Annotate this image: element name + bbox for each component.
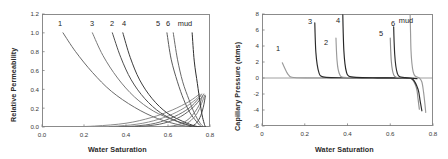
x-axis-label-left: Water Saturation [88, 145, 147, 154]
x-tick-label: 0.8 [423, 130, 443, 137]
x-tick-label: 0.2 [295, 130, 315, 137]
y-axis-label-left: Relative Permeability [9, 48, 18, 122]
x-tick-label: 0.0 [32, 131, 52, 138]
y-tick-label: 4 [240, 42, 259, 49]
y-tick-label: 8 [240, 10, 259, 17]
y-tick-label: 0 [240, 74, 259, 81]
curve-label-left-6: 6 [159, 19, 177, 28]
y-tick-label: 0.2 [20, 105, 39, 112]
y-tick-label: 0.4 [20, 86, 39, 93]
curve-label-right-3: 3 [301, 17, 319, 26]
y-tick-label: 1.2 [20, 10, 39, 17]
x-tick-label: 0.8 [200, 131, 220, 138]
curve-label-left-1: 1 [51, 19, 69, 28]
x-axis-label-right: Water Saturation [315, 145, 374, 154]
y-tick-label: 2 [240, 58, 259, 65]
y-tick-label: 6 [240, 26, 259, 33]
y-tick-label: 0.0 [20, 123, 39, 130]
curve-label-right-5: 5 [372, 29, 390, 38]
curve-label-left-4: 4 [115, 19, 133, 28]
x-tick-label: 0.2 [74, 131, 94, 138]
curve-label-right-mud: mud [397, 16, 415, 25]
y-tick-label: 1.0 [20, 29, 39, 36]
y-tick-label: -4 [240, 106, 259, 113]
curve-label-left-mud: mud [176, 19, 194, 28]
y-tick-label: -2 [240, 90, 259, 97]
curve-label-right-2: 2 [317, 38, 335, 47]
x-tick-label: 0.6 [158, 131, 178, 138]
curve-label-left-3: 3 [83, 19, 101, 28]
x-tick-label: 0.4 [338, 130, 358, 137]
y-axis-label-right: Capillary Pressure (atms) [233, 42, 242, 131]
y-tick-label: -6 [240, 122, 259, 129]
curve-label-right-1: 1 [269, 44, 287, 53]
x-tick-label: 0 [252, 130, 272, 137]
y-tick-label: 0.8 [20, 48, 39, 55]
curve-label-right-4: 4 [329, 16, 347, 25]
y-tick-label: 0.6 [20, 67, 39, 74]
figure-two-panel-chart: Relative Permeability Water Saturation C… [0, 0, 448, 159]
x-tick-label: 0.6 [380, 130, 400, 137]
x-tick-label: 0.4 [116, 131, 136, 138]
